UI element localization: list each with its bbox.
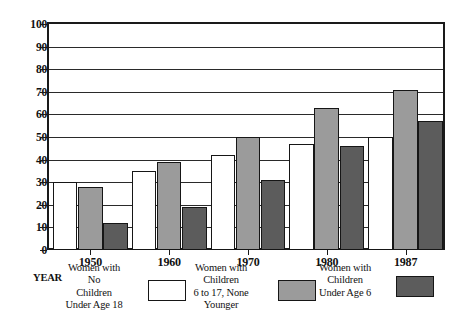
- y-axis-tick-mark: [40, 205, 47, 206]
- y-axis-tick-mark: [40, 24, 47, 25]
- bar: [340, 146, 365, 250]
- bar: [393, 90, 418, 250]
- bar-group: [132, 24, 207, 250]
- y-axis-tick-mark: [40, 137, 47, 138]
- y-axis-tick-mark: [40, 92, 47, 93]
- bar: [261, 180, 286, 250]
- bars-layer: [49, 24, 443, 250]
- y-axis-tick-mark: [40, 114, 47, 115]
- bar: [418, 121, 443, 250]
- bar: [103, 223, 128, 250]
- legend-label: Women withNoChildrenUnder Age 18: [48, 262, 140, 312]
- legend-swatch: [396, 276, 434, 297]
- y-axis: 0102030405060708090100: [0, 0, 47, 260]
- bar-group: [289, 24, 364, 250]
- bar-chart: 0102030405060708090100 19501960197019801…: [0, 0, 454, 336]
- bar: [157, 162, 182, 250]
- bar-group: [211, 24, 286, 250]
- bar: [236, 137, 261, 250]
- bar: [182, 207, 207, 250]
- y-axis-tick-mark: [40, 69, 47, 70]
- bar-group: [53, 24, 128, 250]
- legend-label: Women withChildren6 to 17, NoneYounger: [172, 262, 270, 312]
- bar-group: [368, 24, 443, 250]
- y-axis-tick-mark: [40, 227, 47, 228]
- bar: [132, 171, 157, 250]
- bar: [78, 187, 103, 250]
- y-axis-tick-mark: [40, 160, 47, 161]
- bar: [53, 182, 78, 250]
- bar: [368, 137, 393, 250]
- y-axis-tick-mark: [40, 182, 47, 183]
- legend: Women withNoChildrenUnder Age 18Women wi…: [0, 262, 454, 336]
- bar: [289, 144, 314, 250]
- legend-label: Women withChildrenUnder Age 6: [300, 262, 390, 299]
- y-axis-tick-mark: [40, 47, 47, 48]
- bar: [211, 155, 236, 250]
- bar: [314, 108, 339, 250]
